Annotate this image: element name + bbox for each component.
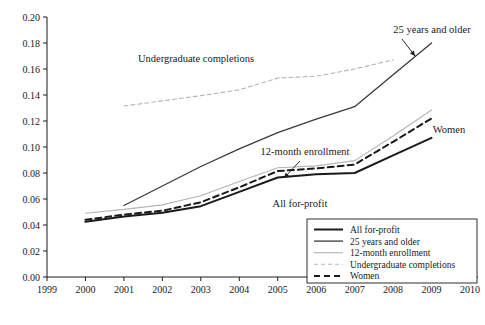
legend-label: 25 years and older — [350, 237, 421, 247]
legend-label: 12-month enrollment — [350, 248, 431, 258]
y-axis-ticks: 0.000.020.040.060.080.100.120.140.160.18… — [23, 12, 48, 283]
annotation-label: All for-profit — [273, 198, 328, 209]
y-tick-label: 0.18 — [23, 38, 41, 49]
chart-container: 0.000.020.040.060.080.100.120.140.160.18… — [0, 0, 485, 325]
x-tick-label: 2003 — [191, 284, 211, 295]
y-tick-label: 0.08 — [23, 168, 41, 179]
legend-label: All for-profit — [350, 225, 400, 235]
x-tick-label: 2009 — [422, 284, 442, 295]
y-tick-label: 0.20 — [23, 12, 41, 23]
legend: All for-profit25 years and older12-month… — [307, 219, 477, 283]
series-line — [85, 118, 431, 219]
annotation-label: Undergraduate completions — [138, 53, 254, 64]
x-tick-label: 2005 — [268, 284, 288, 295]
y-tick-label: 0.10 — [23, 142, 41, 153]
x-tick-label: 2000 — [75, 284, 95, 295]
x-tick-label: 2006 — [306, 284, 326, 295]
annotation-arrowhead — [410, 51, 415, 56]
legend-label: Women — [350, 271, 380, 281]
data-series — [85, 43, 431, 222]
x-tick-label: 1999 — [37, 284, 57, 295]
x-tick-label: 2008 — [383, 284, 403, 295]
x-tick-label: 2007 — [345, 284, 365, 295]
y-tick-label: 0.14 — [23, 90, 41, 101]
x-tick-label: 2010 — [460, 284, 480, 295]
y-tick-label: 0.00 — [23, 272, 41, 283]
line-chart: 0.000.020.040.060.080.100.120.140.160.18… — [0, 0, 485, 325]
series-line — [124, 60, 393, 106]
x-tick-label: 2004 — [229, 284, 249, 295]
y-tick-label: 0.16 — [23, 64, 41, 75]
y-tick-label: 0.04 — [23, 220, 41, 231]
x-tick-label: 2002 — [152, 284, 172, 295]
annotation-label: 12-month enrollment — [261, 146, 350, 157]
annotation-label: 25 years and older — [393, 24, 471, 35]
annotation-label: Women — [433, 124, 466, 135]
series-line — [124, 43, 432, 206]
y-tick-label: 0.12 — [23, 116, 41, 127]
y-tick-label: 0.06 — [23, 194, 41, 205]
y-tick-label: 0.02 — [23, 246, 41, 257]
x-tick-label: 2001 — [114, 284, 134, 295]
legend-label: Undergraduate completions — [350, 260, 455, 270]
